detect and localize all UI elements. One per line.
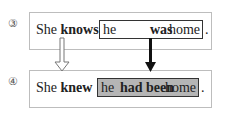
solid-arrow-icon [145, 38, 156, 72]
hollow-arrow-icon [55, 38, 69, 71]
tense-shift-arrows [0, 0, 225, 114]
